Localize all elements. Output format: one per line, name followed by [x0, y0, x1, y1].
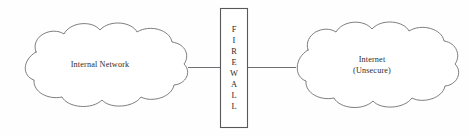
- firewall-letter: W: [230, 69, 238, 78]
- firewall-letter: E: [231, 58, 236, 67]
- firewall-letter: I: [233, 36, 236, 45]
- firewall-label-vertical: F I R E W A L L: [220, 8, 248, 128]
- firewall-letter: F: [232, 25, 237, 34]
- firewall-letter: R: [231, 47, 237, 56]
- firewall-network-diagram: Internal Network Internet (Unsecure) F I…: [0, 0, 468, 136]
- firewall-letter: L: [231, 102, 236, 111]
- firewall-box: F I R E W A L L: [220, 8, 248, 128]
- internet-label: Internet (Unsecure): [304, 55, 440, 76]
- firewall-letter: L: [231, 91, 236, 100]
- internal-network-label: Internal Network: [26, 60, 174, 71]
- firewall-letter: A: [231, 80, 237, 89]
